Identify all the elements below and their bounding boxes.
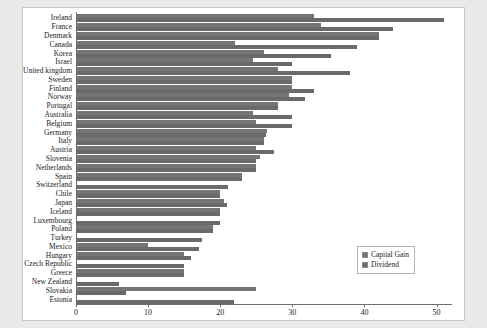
category-label: New Zealand [2,277,76,286]
bar-group: Estonia [76,295,451,304]
bar-dividend [76,71,350,75]
bar-group: Chile [76,190,451,199]
bar-group: Korea [76,49,451,58]
bar-dividend [76,194,220,198]
x-tick [148,304,149,307]
category-label: Poland [2,224,76,233]
bar-group: United kingdom [76,67,451,76]
x-tick [292,304,293,307]
bar-dividend [76,159,256,163]
bar-dividend [76,45,357,49]
bar-group: Austria [76,146,451,155]
category-label: Korea [2,49,76,58]
legend-label: Capital Gain [371,250,409,260]
legend-swatch-icon [362,252,368,258]
category-label: Greece [2,268,76,277]
bar-dividend [76,36,379,40]
bar-dividend [76,291,126,295]
bar-dividend [76,80,292,84]
bar-group: Slovenia [76,155,451,164]
bar-dividend [76,229,213,233]
bar-dividend [76,115,292,119]
chart-figure: IrelandFranceDenmarkCanadaKoreaIsraelUni… [22,7,465,321]
bar-dividend [76,221,220,225]
category-label: Australia [2,110,76,119]
bar-group: Slovakia [76,286,451,295]
x-tick [76,304,77,307]
category-label: Netherlands [2,163,76,172]
chart-legend: Capital Gain Dividend [357,246,415,274]
bar-group: Canada [76,40,451,49]
bar-dividend [76,18,444,22]
bar-group: Switzerland [76,181,451,190]
bar-dividend [76,212,220,216]
category-label: Turkey [2,233,76,242]
bar-group: Japan [76,199,451,208]
bar-group: Turkey [76,234,451,243]
bar-group: France [76,23,451,32]
bar-dividend [76,282,119,286]
category-label: Sweden [2,75,76,84]
category-label: Belgium [2,119,76,128]
category-label: Luxembourg [2,216,76,225]
category-label: Canada [2,40,76,49]
category-label: Spain [2,172,76,181]
bar-dividend [76,97,305,101]
bar-dividend [76,54,331,58]
bar-group: Germany [76,128,451,137]
bar-group: Sweden [76,76,451,85]
x-tick [220,304,221,307]
bar-dividend [76,264,184,268]
bar-group: Italy [76,137,451,146]
category-label: Hungary [2,251,76,260]
category-label: Denmark [2,31,76,40]
bar-group: Spain [76,172,451,181]
bar-group: New Zealand [76,278,451,287]
x-tick-label: 30 [288,308,296,317]
bar-dividend [76,177,242,181]
category-label: Austria [2,145,76,154]
bar-dividend [76,256,191,260]
bar-dividend [76,203,227,207]
bar-dividend [76,185,228,189]
bar-dividend [76,238,202,242]
bar-dividend [76,150,274,154]
category-label: Mexico [2,242,76,251]
bar-group: Poland [76,225,451,234]
bar-dividend [76,133,266,137]
category-label: Finland [2,84,76,93]
x-tick-label: 0 [74,308,78,317]
category-label: Czech Republic [2,259,76,268]
bar-group: Belgium [76,119,451,128]
bar-dividend [76,300,234,304]
bar-group: Portugal [76,102,451,111]
x-tick-label: 10 [144,308,152,317]
bar-dividend [76,247,199,251]
category-label: Germany [2,128,76,137]
category-label: Israel [2,57,76,66]
bar-dividend [76,141,264,145]
bar-group: Luxembourg [76,216,451,225]
x-tick-label: 50 [433,308,441,317]
bar-group: Australia [76,111,451,120]
category-label: Chile [2,189,76,198]
x-tick [364,304,365,307]
category-label: Iceland [2,207,76,216]
category-label: Switzerland [2,180,76,189]
x-tick-label: 40 [360,308,368,317]
legend-label: Dividend [371,260,399,270]
bar-dividend [76,62,292,66]
legend-item-dividend: Dividend [362,260,409,270]
bar-group: Denmark [76,32,451,41]
bar-dividend [76,124,292,128]
category-label: Estonia [2,295,76,304]
bar-dividend [76,168,256,172]
bar-group: Norway [76,93,451,102]
bar-group: Netherlands [76,163,451,172]
category-label: Ireland [2,13,76,22]
bar-group: Israel [76,58,451,67]
category-label: Norway [2,92,76,101]
bar-group: Ireland [76,14,451,23]
category-label: Japan [2,198,76,207]
category-label: United kingdom [2,66,76,75]
